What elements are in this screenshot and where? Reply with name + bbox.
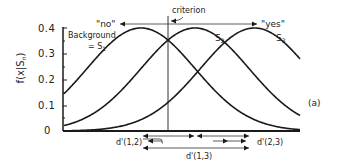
y-tick-0.3: 0.3 xyxy=(38,49,55,59)
yes-label: "yes" xyxy=(261,20,285,29)
dprime-12-label: d'(1,2) xyxy=(116,139,142,147)
panel-label: (a) xyxy=(308,99,321,108)
y-tick-0.4: 0.4 xyxy=(38,24,55,34)
y-axis-label: f(x|Sn) xyxy=(15,53,27,84)
s2-label: S2 xyxy=(215,34,225,44)
s3-label: S3 xyxy=(276,34,286,44)
dprime-arrows xyxy=(143,136,249,148)
criterion-label: criterion xyxy=(172,7,205,15)
dprime-23-label: d'(2,3) xyxy=(257,139,283,147)
y-tick-0: 0 xyxy=(44,126,51,136)
background-eq-label: = S1 xyxy=(88,43,106,52)
dprime-13-label: d'(1,3) xyxy=(186,153,212,161)
background-label: Background xyxy=(68,32,116,40)
criterion-pointer xyxy=(171,17,183,21)
y-tick-0.2: 0.2 xyxy=(38,75,55,85)
no-label: "no" xyxy=(96,20,116,29)
y-tick-0.1: 0.1 xyxy=(38,101,55,111)
